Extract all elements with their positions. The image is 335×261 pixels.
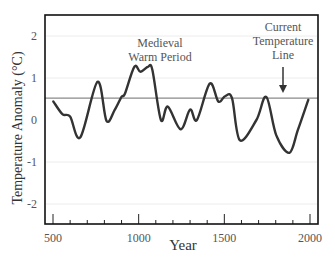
x-tick-label: 1500 <box>212 232 236 244</box>
annotation-line: Temperature <box>253 34 313 48</box>
annotation-line: Current <box>253 20 313 34</box>
x-tick-label: 500 <box>44 232 62 244</box>
annotation-line: Line <box>253 48 313 62</box>
annotation-current-temperature-line: Current Temperature Line <box>253 20 313 62</box>
y-axis-label: Temperature Anomaly (°C) <box>10 51 26 204</box>
annotation-medieval-warm-period: Medieval Warm Period <box>128 36 191 64</box>
x-axis-label: Year <box>169 237 197 254</box>
x-tick-marks <box>53 214 310 224</box>
x-tick-label: 1000 <box>127 232 151 244</box>
y-tick-label: 2 <box>17 30 37 42</box>
annotation-line: Medieval <box>128 36 191 50</box>
down-arrow-icon <box>279 67 287 93</box>
annotation-line: Warm Period <box>128 50 191 64</box>
x-tick-label: 2000 <box>298 232 322 244</box>
